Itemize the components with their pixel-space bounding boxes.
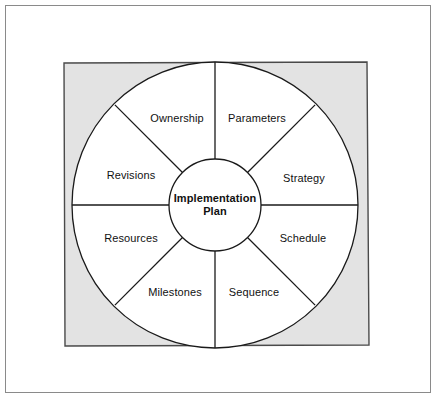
hub-label-line2: Plan — [174, 205, 257, 218]
segment-label-resources: Resources — [104, 232, 157, 244]
segment-label-parameters: Parameters — [228, 112, 286, 124]
segment-label-ownership: Ownership — [150, 112, 203, 124]
segment-label-milestones: Milestones — [148, 286, 202, 298]
page-canvas: Implementation Plan Ownership Parameters… — [0, 0, 438, 400]
hub-label: Implementation Plan — [174, 192, 257, 218]
segment-label-sequence: Sequence — [229, 286, 279, 298]
hub-label-line1: Implementation — [174, 192, 257, 205]
segment-label-schedule: Schedule — [280, 232, 327, 244]
segment-label-revisions: Revisions — [107, 169, 156, 181]
segment-label-strategy: Strategy — [283, 172, 325, 184]
